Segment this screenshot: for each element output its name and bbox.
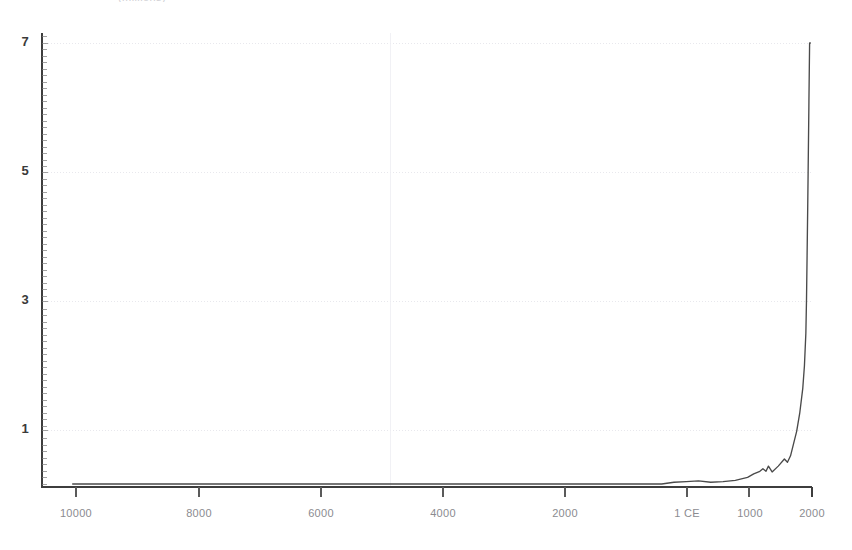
x-tick-label-1ce: 1 CE [674,507,700,519]
x-tick-label-1000: 1000 [737,507,763,519]
y-tick-label-5: 5 [21,163,28,178]
x-axis-ticks [76,487,749,497]
chart-plot-area: 7 5 3 1 10000 8000 6000 4000 2000 1 CE [0,0,852,550]
y-tick-label-7: 7 [21,34,28,49]
x-tick-label-2000: 2000 [552,507,578,519]
population-chart: (millions) [0,0,852,550]
population-curve [73,43,811,484]
x-tick-label-8000: 8000 [186,507,212,519]
x-tick-label-10000: 10000 [60,507,92,519]
x-tick-label-4000: 4000 [430,507,456,519]
x-tick-label-6000: 6000 [308,507,334,519]
x-axis: 10000 8000 6000 4000 2000 1 CE 1000 2000 [42,487,825,519]
y-tick-label-1: 1 [21,421,28,436]
y-tick-label-3: 3 [21,292,28,307]
x-tick-label-2000b: 2000 [799,507,825,519]
horizontal-gridlines [42,43,812,430]
y-axis: 7 5 3 1 [21,33,48,488]
